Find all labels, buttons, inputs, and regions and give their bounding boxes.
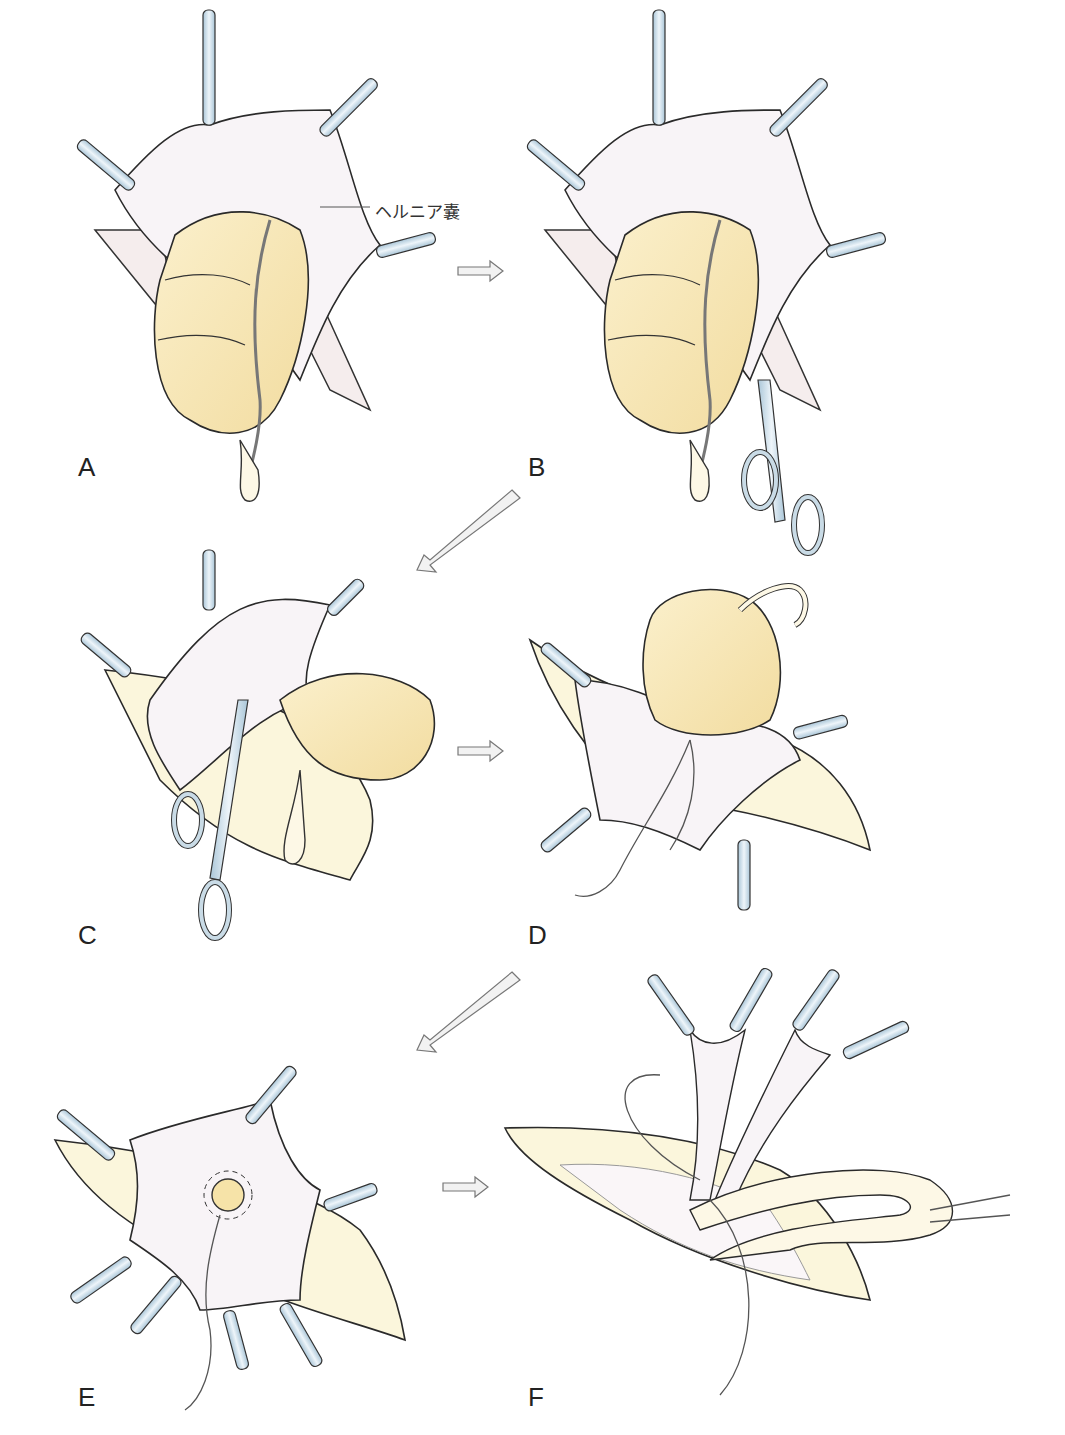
panel-label-f: F — [528, 1382, 544, 1413]
panel-f — [505, 967, 1010, 1395]
arrow-down-left-icon — [417, 490, 520, 572]
panel-label-c: C — [78, 920, 97, 951]
hernia-sac-annotation: ヘルニア嚢 — [375, 198, 460, 223]
surgical-illustration — [0, 0, 1065, 1435]
panel-a — [75, 10, 436, 501]
panel-label-d: D — [528, 920, 547, 951]
arrow-right-icon — [443, 1177, 488, 1197]
arrow-down-left-icon — [417, 972, 520, 1052]
panel-label-e: E — [78, 1382, 95, 1413]
panel-e — [55, 1064, 405, 1410]
panel-b — [525, 10, 886, 553]
panel-label-b: B — [528, 452, 545, 483]
panel-d — [530, 586, 870, 910]
arrow-right-icon — [458, 261, 503, 281]
panel-label-a: A — [78, 452, 95, 483]
arrow-right-icon — [458, 741, 503, 761]
panel-c — [79, 550, 434, 938]
